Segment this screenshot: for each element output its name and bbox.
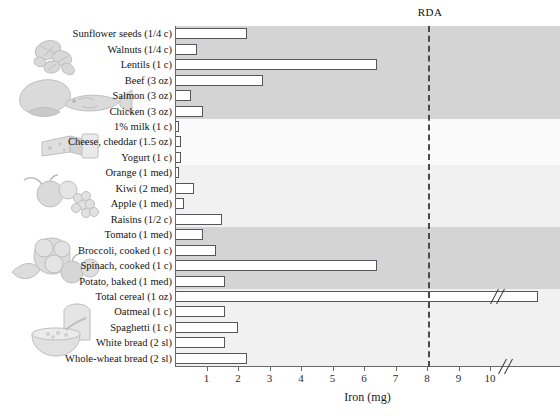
bar [175,198,184,209]
category-label: Tomato (1 med) [105,229,173,240]
y-axis-line [175,26,176,367]
x-tick-label: 8 [415,372,439,384]
category-label: Raisins (1/2 c) [111,214,172,225]
category-label: Chicken (3 oz) [110,106,172,117]
x-tick-label: 5 [321,372,345,384]
bar [175,28,247,39]
bar [175,106,203,117]
bar [175,44,197,55]
bar [175,291,538,302]
x-axis-line [175,366,560,367]
bar [175,214,222,225]
rda-reference-line [428,26,430,367]
category-label: Beef (3 oz) [125,75,172,86]
category-label: Whole-wheat bread (2 sl) [65,353,172,364]
category-label: Apple (1 med) [111,198,172,209]
category-label: Yogurt (1 c) [121,152,172,163]
category-label: 1% milk (1 c) [114,121,172,132]
category-label: Walnuts (1/4 c) [108,44,172,55]
iron-content-bar-chart: 12345678910 Iron (mg) Sunflower seeds (1… [0,0,560,416]
x-tick-label: 9 [447,372,471,384]
category-label: Oatmeal (1 c) [114,306,172,317]
category-labels: Sunflower seeds (1/4 c)Walnuts (1/4 c)Le… [0,26,174,367]
category-label: Orange (1 med) [106,167,172,178]
x-tick-label: 7 [384,372,408,384]
bar [175,183,194,194]
x-tick [207,366,208,371]
category-label: White bread (2 sl) [96,337,172,348]
category-label: Salmon (3 oz) [113,90,173,101]
category-label: Spinach, cooked (1 c) [80,260,172,271]
bar [175,245,216,256]
x-tick [238,366,239,371]
x-tick [270,366,271,371]
category-label: Kiwi (2 med) [115,183,172,194]
bar [175,75,263,86]
x-tick [396,366,397,371]
category-label: Total cereal (1 oz) [95,291,172,302]
category-label: Sunflower seeds (1/4 c) [73,28,172,39]
x-tick-label: 1 [195,372,219,384]
x-tick [333,366,334,371]
bars-layer [175,26,560,366]
x-tick-label: 3 [258,372,282,384]
x-tick [490,366,491,371]
rda-label: RDA [408,6,452,18]
x-tick [459,366,460,371]
x-axis-title: Iron (mg) [175,390,560,405]
x-tick [301,366,302,371]
x-tick-label: 4 [289,372,313,384]
category-label: Cheese, cheddar (1.5 oz) [68,136,172,147]
bar [175,229,203,240]
x-tick-label: 2 [226,372,250,384]
x-tick [364,366,365,371]
category-label: Spaghetti (1 c) [110,322,172,333]
bar [175,353,247,364]
bar [175,276,225,287]
bar [175,322,238,333]
bar [175,59,377,70]
bar [175,337,225,348]
category-label: Broccoli, cooked (1 c) [78,245,172,256]
bar [175,260,377,271]
x-tick-label: 10 [478,372,502,384]
bar [175,306,225,317]
x-tick-label: 6 [352,372,376,384]
bar [175,90,191,101]
category-label: Potato, baked (1 med) [79,276,172,287]
category-label: Lentils (1 c) [121,59,172,70]
